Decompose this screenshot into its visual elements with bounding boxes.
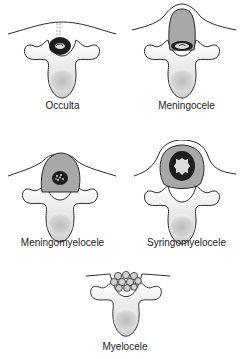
label-meningomyelocele: Meningomyelocele <box>0 237 125 248</box>
meningomyelocele-illustration <box>0 140 125 250</box>
myelocele-illustration <box>60 260 190 345</box>
label-syringomyelocele: Syringomyelocele <box>124 237 249 248</box>
panel-occulta: Occulta <box>0 0 125 120</box>
panel-syringomyelocele: Syringomyelocele <box>124 140 249 260</box>
syringomyelocele-illustration <box>124 140 249 250</box>
panel-myelocele: Myelocele <box>60 260 190 359</box>
label-occulta: Occulta <box>0 100 125 111</box>
meningocele-illustration <box>124 0 249 110</box>
panel-meningocele: Meningocele <box>124 0 249 120</box>
label-meningocele: Meningocele <box>124 100 249 111</box>
label-myelocele: Myelocele <box>60 341 190 352</box>
occulta-illustration <box>0 0 125 110</box>
panel-meningomyelocele: Meningomyelocele <box>0 140 125 260</box>
